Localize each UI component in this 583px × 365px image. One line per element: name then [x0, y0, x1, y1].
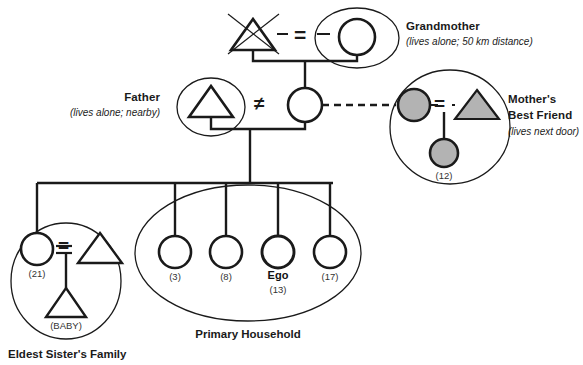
grandparents-marriage-symbol: = [294, 23, 306, 47]
eldest-sister-age: (21) [12, 268, 62, 279]
eldest-sister-baby-age: (BABY) [41, 320, 91, 331]
best-friend-marriage-symbol: = [434, 93, 445, 115]
best-friend-label-title-line2: Best Friend [508, 109, 572, 121]
parents-separation-symbol: ≠ [254, 93, 264, 115]
mother-circle [288, 88, 322, 122]
ego-name-label: Ego [253, 269, 303, 281]
eldest-sister-baby-triangle [46, 288, 86, 317]
father-triangle [189, 86, 233, 117]
child-4-circle [314, 236, 346, 268]
child-2-circle [210, 236, 242, 268]
child-4-age: (17) [305, 271, 355, 282]
eldest-sister-circle [21, 233, 53, 265]
parents-union-bar [211, 117, 305, 129]
genogram-svg [0, 0, 583, 365]
grandmother-label-title: Grandmother [406, 20, 480, 32]
ego-age: (13) [253, 284, 303, 295]
genogram-canvas: Grandmother (lives alone; 50 km distance… [0, 0, 583, 365]
primary-household-label: Primary Household [168, 328, 328, 340]
child-1-circle [159, 236, 191, 268]
eldest-sister-partner-triangle [78, 233, 122, 263]
grandparents-descent-path [253, 50, 357, 61]
best-friend-child-age: (12) [419, 170, 469, 181]
eldest-sisters-family-label: Eldest Sister's Family [8, 348, 126, 360]
child-2-age: (8) [201, 271, 251, 282]
grandmother-circle [339, 19, 375, 55]
eldest-sister-marriage-symbol: = [58, 235, 69, 257]
best-friend-female-circle [398, 89, 430, 121]
ego-circle [262, 236, 294, 268]
father-label-note: (lives alone; nearby) [25, 107, 160, 118]
grandmother-label-note: (lives alone; 50 km distance) [406, 36, 533, 47]
best-friend-label-title-line1: Mother's [508, 93, 556, 105]
best-friend-male-triangle [455, 90, 499, 119]
best-friend-label-note: (lives next door) [508, 126, 579, 137]
child-1-age: (3) [150, 271, 200, 282]
father-label-title: Father [40, 91, 160, 103]
best-friend-child-circle [430, 139, 458, 167]
